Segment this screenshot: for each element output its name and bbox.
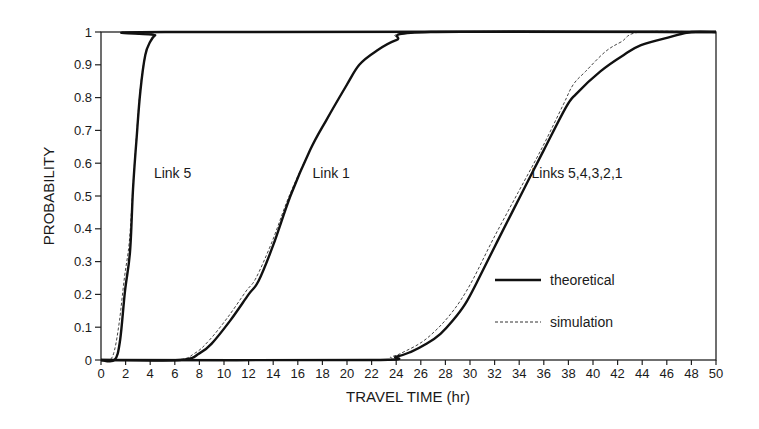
x-tick-label: 20 xyxy=(340,366,354,381)
y-tick-label: 0.4 xyxy=(74,221,92,236)
y-tick-label: 0.7 xyxy=(74,123,92,138)
x-tick-label: 6 xyxy=(171,366,178,381)
curve-label: Link 5 xyxy=(154,165,192,181)
x-tick-label: 40 xyxy=(586,366,600,381)
x-tick-label: 44 xyxy=(635,366,649,381)
plot-border xyxy=(101,32,716,360)
x-tick-label: 46 xyxy=(660,366,674,381)
x-tick-label: 42 xyxy=(610,366,624,381)
series-layer xyxy=(101,31,716,361)
x-tick-label: 16 xyxy=(291,366,305,381)
y-tick-label: 0.6 xyxy=(74,156,92,171)
x-tick-label: 48 xyxy=(684,366,698,381)
legend-theoretical-label: theoretical xyxy=(550,272,615,288)
curve-label: Link 1 xyxy=(313,165,351,181)
y-tick-label: 0.9 xyxy=(74,57,92,72)
x-tick-label: 34 xyxy=(512,366,526,381)
legend: theoretical simulation xyxy=(495,272,615,330)
x-tick-label: 24 xyxy=(389,366,403,381)
x-tick-label: 36 xyxy=(537,366,551,381)
x-tick-label: 0 xyxy=(97,366,104,381)
y-tick-label: 0.3 xyxy=(74,254,92,269)
x-tick-label: 14 xyxy=(266,366,280,381)
links-5-4-3-2-1-theoretical-curve xyxy=(101,32,716,361)
legend-simulation-label: simulation xyxy=(550,314,613,330)
link-1-theoretical-curve xyxy=(101,31,716,360)
x-tick-label: 12 xyxy=(241,366,255,381)
plot-frame xyxy=(101,32,716,360)
y-axis-title: PROBABILITY xyxy=(40,147,57,245)
x-tick-label: 26 xyxy=(414,366,428,381)
y-tick-label: 0 xyxy=(85,353,92,368)
link-1-simulation-curve xyxy=(101,31,716,360)
y-tick-label: 0.1 xyxy=(74,320,92,335)
x-tick-label: 4 xyxy=(147,366,154,381)
y-tick-label: 0.5 xyxy=(74,189,92,204)
curve-label: Links 5,4,3,2,1 xyxy=(532,165,623,181)
y-tick-label: 0.2 xyxy=(74,287,92,302)
x-tick-label: 10 xyxy=(217,366,231,381)
x-tick-label: 50 xyxy=(709,366,723,381)
y-tick-label: 0.8 xyxy=(74,90,92,105)
curve-labels: Link 5Link 1Links 5,4,3,2,1 xyxy=(154,165,623,181)
x-tick-label: 28 xyxy=(438,366,452,381)
x-axis: 0246810121416182022242628303234363840424… xyxy=(97,360,723,381)
x-tick-label: 22 xyxy=(364,366,378,381)
link-5-simulation-curve xyxy=(101,32,716,361)
y-tick-label: 1 xyxy=(85,25,92,40)
x-tick-label: 2 xyxy=(122,366,129,381)
x-tick-label: 32 xyxy=(487,366,501,381)
x-tick-label: 18 xyxy=(315,366,329,381)
links-5-4-3-2-1-simulation-curve xyxy=(101,31,716,360)
travel-time-cdf-chart: 00.10.20.30.40.50.60.70.80.91 0246810121… xyxy=(0,0,759,429)
x-tick-label: 38 xyxy=(561,366,575,381)
y-axis: 00.10.20.30.40.50.60.70.80.91 xyxy=(74,25,101,368)
x-axis-title: TRAVEL TIME (hr) xyxy=(346,388,470,405)
x-tick-label: 8 xyxy=(196,366,203,381)
x-tick-label: 30 xyxy=(463,366,477,381)
link-5-theoretical-curve xyxy=(101,32,716,362)
